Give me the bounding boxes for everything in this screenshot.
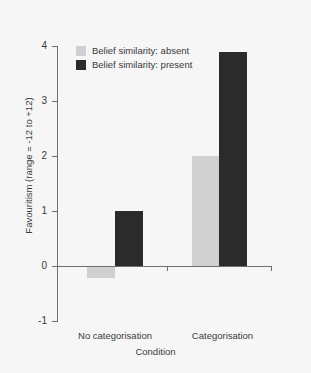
legend-item-absent: Belief similarity: absent <box>76 44 192 57</box>
y-tick-label-4: 4 <box>7 41 47 51</box>
legend-swatch-absent-icon <box>76 46 86 56</box>
bar-chart-figure: 4 3 2 1 0 -1 Belief similarity: absent B… <box>0 0 311 373</box>
legend-item-present: Belief similarity: present <box>76 58 192 71</box>
y-tick-mark-4 <box>52 46 57 47</box>
y-tick-label-neg1: -1 <box>7 316 47 326</box>
y-axis-title: Favouritism (range = -12 to +12) <box>23 61 34 271</box>
y-tick-mark-neg1 <box>52 321 57 322</box>
x-tick-mark-group-separator <box>167 266 168 271</box>
legend-label-absent: Belief similarity: absent <box>92 45 189 56</box>
x-axis-title: Condition <box>0 346 311 357</box>
y-tick-mark-2 <box>52 156 57 157</box>
x-tick-label-no-categorisation: No categorisation <box>55 330 175 341</box>
y-tick-mark-1 <box>52 211 57 212</box>
bar-no-categorisation-present <box>115 211 143 266</box>
bar-no-categorisation-absent <box>87 267 115 278</box>
chart-legend: Belief similarity: absent Belief similar… <box>76 44 192 72</box>
y-tick-mark-3 <box>52 101 57 102</box>
x-tick-label-categorisation: Categorisation <box>170 330 275 341</box>
legend-swatch-present-icon <box>76 60 86 70</box>
bar-categorisation-present <box>219 52 247 266</box>
x-tick-mark-end <box>271 266 272 271</box>
bar-categorisation-absent <box>192 156 219 266</box>
legend-label-present: Belief similarity: present <box>92 59 192 70</box>
y-tick-mark-0 <box>52 266 57 267</box>
y-axis-line <box>57 46 58 322</box>
